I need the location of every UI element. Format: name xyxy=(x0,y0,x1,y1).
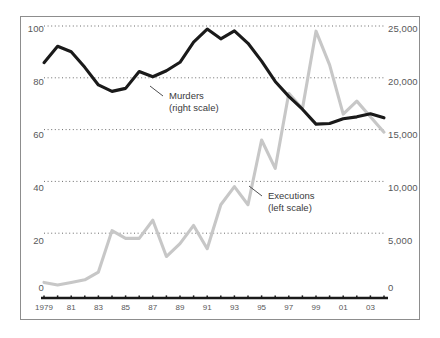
chart-plot-area xyxy=(0,0,440,338)
x-axis-year-label: 03 xyxy=(350,303,390,312)
executions-annotation-line2: (left scale) xyxy=(268,202,314,214)
left-axis-tick-0: 0 xyxy=(18,282,44,293)
executions-annotation: Executions (left scale) xyxy=(268,190,314,214)
series-line-executions xyxy=(44,31,384,285)
left-axis-tick-20: 20 xyxy=(18,235,44,246)
left-axis-tick-60: 60 xyxy=(18,129,44,140)
murders-annotation-line2: (right scale) xyxy=(169,102,219,114)
left-axis-tick-80: 80 xyxy=(18,76,44,87)
left-axis-tick-40: 40 xyxy=(18,182,44,193)
right-axis-tick-25000: 25,000 xyxy=(388,23,418,34)
annotation-leader-line xyxy=(150,86,163,96)
chart-container: 100 80 60 40 20 0 25,000 20,000 15,000 1… xyxy=(0,0,440,338)
right-axis-tick-5000: 5,000 xyxy=(388,235,412,246)
executions-annotation-line1: Executions xyxy=(268,190,314,202)
right-axis-tick-15000: 15,000 xyxy=(388,129,418,140)
right-axis-tick-10000: 10,000 xyxy=(388,182,418,193)
right-axis-tick-0: 0 xyxy=(388,282,393,293)
murders-annotation-line1: Murders xyxy=(169,90,219,102)
murders-annotation: Murders (right scale) xyxy=(169,90,219,114)
left-axis-tick-100: 100 xyxy=(18,23,44,34)
right-axis-tick-20000: 20,000 xyxy=(388,76,418,87)
